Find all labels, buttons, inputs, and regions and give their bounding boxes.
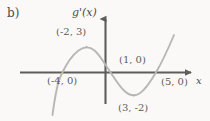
label-root-left: (-4, 0) [47, 76, 77, 86]
label-local-maximum: (-2, 3) [56, 27, 86, 37]
graph-plot-area [0, 0, 210, 121]
label-local-minimum: (3, -2) [118, 103, 148, 113]
x-axis-label: x [196, 76, 202, 86]
local-min-marker [133, 95, 135, 97]
part-label: b) [7, 7, 19, 19]
figure-container: b) g'(x) x (-2, 3) (-4, 0) (1, 0) (5, 0)… [0, 0, 210, 121]
y-axis-label: g'(x) [72, 7, 97, 18]
label-root-middle: (1, 0) [119, 55, 146, 65]
label-root-right: (5, 0) [161, 77, 188, 87]
local-max-marker [86, 46, 88, 48]
